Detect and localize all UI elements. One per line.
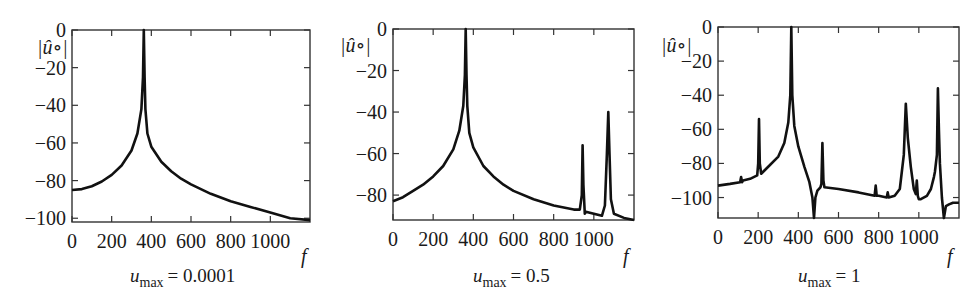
caption-var: u (130, 265, 140, 286)
x-tick-label: 200 (743, 226, 773, 248)
x-tick-label: 200 (97, 230, 127, 252)
x-tick-label: 800 (539, 228, 569, 250)
x-tick-label: 600 (824, 226, 854, 248)
x-tick-label: 200 (418, 228, 448, 250)
x-tick-label: 1000 (899, 226, 939, 248)
panel-umax-0.5: 0−20−40−60−80 02004006008001000 |û∘| f u… (340, 18, 634, 290)
spectrum-curve (72, 30, 310, 220)
y-tick-label: −60 (35, 132, 66, 154)
spectrum-curve (393, 29, 634, 220)
caption-sub: max (140, 275, 164, 290)
panel-umax-0.0001: 0−20−40−60−80−100 02004006008001000 |û∘|… (25, 19, 310, 290)
spectrum-curve (718, 27, 959, 218)
y-tick-label: −40 (356, 101, 387, 123)
caption-sub: max (808, 275, 832, 290)
caption-sub: max (483, 275, 507, 290)
y-tick-label: −80 (681, 152, 712, 174)
x-tick-label: 0 (388, 228, 398, 250)
y-tick-label: 0 (702, 16, 712, 38)
y-axis-label: |û∘| (661, 34, 692, 57)
y-axis-label: |û∘| (37, 36, 68, 59)
y-tick-label: 0 (377, 18, 387, 40)
caption-var: u (798, 265, 808, 286)
x-tick-label: 400 (783, 226, 813, 248)
chart-figure: 0−20−40−60−80−100 02004006008001000 |û∘|… (0, 0, 971, 306)
x-tick-label: 0 (713, 226, 723, 248)
y-axis-label: |û∘| (340, 34, 371, 57)
x-tick-labels: 02004006008001000 (388, 228, 614, 250)
y-tick-label: −100 (25, 207, 66, 229)
caption-var: u (473, 265, 483, 286)
x-axis-label: f (623, 245, 631, 268)
x-tick-label: 400 (136, 230, 166, 252)
x-tick-label: 600 (499, 228, 529, 250)
y-tick-label: −80 (35, 170, 66, 192)
caption-value: = 0.5 (511, 265, 550, 286)
plot-frame (72, 30, 310, 222)
panel-caption: umax= 0.5 (473, 265, 550, 290)
y-tick-label: −60 (681, 118, 712, 140)
x-tick-label: 0 (67, 230, 77, 252)
x-tick-label: 800 (216, 230, 246, 252)
y-tick-label: −40 (681, 84, 712, 106)
panel-umax-1: 0−20−40−60−80−100 02004006008001000 |û∘|… (661, 16, 959, 290)
y-tick-label: −40 (35, 94, 66, 116)
x-tick-labels: 02004006008001000 (713, 226, 939, 248)
y-tick-label: −20 (356, 60, 387, 82)
panel-0-ticks (72, 30, 310, 222)
y-tick-label: −60 (356, 143, 387, 165)
x-axis-label: f (301, 245, 309, 268)
caption-value: = 1 (836, 265, 861, 286)
panel-caption: umax= 0.0001 (130, 265, 235, 290)
x-tick-label: 1000 (250, 230, 290, 252)
x-tick-label: 600 (176, 230, 206, 252)
y-tick-label: −80 (356, 184, 387, 206)
x-tick-label: 1000 (574, 228, 614, 250)
x-tick-label: 400 (458, 228, 488, 250)
y-tick-label: −100 (671, 187, 712, 209)
caption-value: = 0.0001 (168, 265, 236, 286)
x-axis-label: f (947, 245, 955, 268)
x-tick-labels: 02004006008001000 (67, 230, 290, 252)
y-tick-label: −20 (35, 57, 66, 79)
x-tick-label: 800 (864, 226, 894, 248)
panel-caption: umax= 1 (798, 265, 861, 290)
